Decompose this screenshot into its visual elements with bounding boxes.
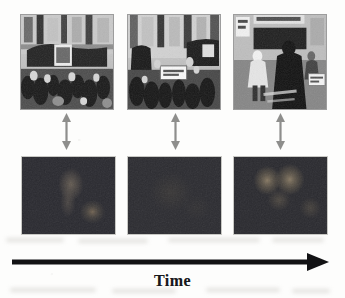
time-axis-label: Time bbox=[0, 272, 345, 290]
frame-3-image bbox=[234, 15, 326, 109]
time-axis-arrow bbox=[11, 252, 333, 272]
scan-smudge bbox=[6, 238, 64, 242]
video-frame-1 bbox=[20, 14, 114, 110]
attention-map-2 bbox=[127, 156, 222, 235]
double-headed-vertical-arrow-icon bbox=[274, 113, 287, 150]
frame-1-image bbox=[21, 15, 113, 109]
attention-map-1 bbox=[21, 156, 116, 235]
video-frame-3 bbox=[233, 14, 327, 110]
correspondence-arrow-2 bbox=[169, 113, 182, 150]
attention-map-3 bbox=[233, 156, 328, 235]
scan-smudge bbox=[168, 238, 260, 242]
right-arrow-icon bbox=[307, 253, 329, 271]
video-frame-2 bbox=[127, 14, 221, 110]
map-1-image bbox=[22, 157, 115, 234]
map-3-image bbox=[234, 157, 327, 234]
double-headed-vertical-arrow-icon bbox=[60, 113, 73, 150]
correspondence-arrow-3 bbox=[274, 113, 287, 150]
frame-2-image bbox=[128, 15, 220, 109]
double-headed-vertical-arrow-icon bbox=[169, 113, 182, 150]
correspondence-arrow-1 bbox=[60, 113, 73, 150]
scan-smudge bbox=[272, 238, 324, 242]
scan-smudge bbox=[78, 239, 148, 243]
map-2-image bbox=[128, 157, 221, 234]
figure-canvas: Time bbox=[0, 0, 345, 298]
